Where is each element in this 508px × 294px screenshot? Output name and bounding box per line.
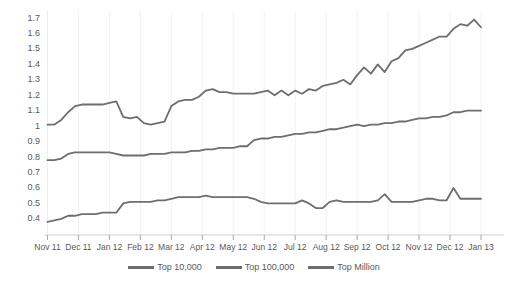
y-axis-tick-label: 0.4 [18,213,40,223]
y-axis-tick-label: 0.8 [18,152,40,162]
line-chart: 1.71.61.51.41.31.21.110.90.80.70.60.50.4… [0,0,508,294]
legend-item[interactable]: Top Million [308,262,380,273]
y-axis-tick-label: 1 [18,121,40,131]
legend-item[interactable]: Top 100,000 [216,262,295,273]
y-axis-tick-label: 1.6 [18,28,40,38]
y-axis-tick-label: 1.2 [18,90,40,100]
y-axis-tick-label: 0.6 [18,182,40,192]
legend-label: Top 100,000 [245,262,295,273]
y-axis-tick-label: 0.5 [18,198,40,208]
y-axis-tick-label: 0.7 [18,167,40,177]
y-axis-tick-label: 1.7 [18,13,40,23]
y-axis-tick-label: 1.4 [18,59,40,69]
y-axis-tick-label: 0.9 [18,136,40,146]
legend-line-swatch-icon [308,266,334,269]
x-axis-tick-marks [48,235,482,240]
chart-legend: Top 10,000Top 100,000Top Million [0,262,508,273]
legend-label: Top Million [337,262,380,273]
y-axis-tick-label: 1.1 [18,105,40,115]
legend-line-swatch-icon [216,266,242,269]
legend-label: Top 10,000 [157,262,202,273]
x-axis-tick-label: Jan 13 [459,242,503,252]
axis-lines [45,10,505,235]
legend-line-swatch-icon [128,266,154,269]
y-axis-tick-label: 1.5 [18,43,40,53]
y-axis-tick-label: 1.3 [18,74,40,84]
legend-item[interactable]: Top 10,000 [128,262,202,273]
